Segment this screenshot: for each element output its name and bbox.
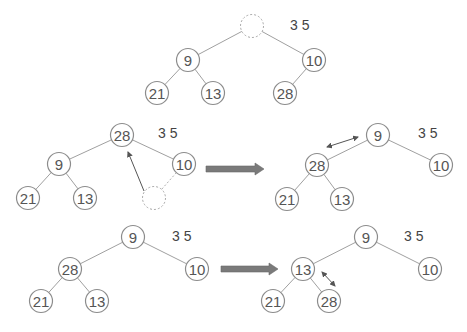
tree-step2-before: 2891021133 5 bbox=[17, 124, 196, 210]
node-value: 13 bbox=[295, 261, 312, 278]
remaining-values-label: 3 5 bbox=[290, 17, 310, 33]
heap-node: 21 bbox=[30, 290, 53, 313]
node-value: 9 bbox=[55, 156, 63, 173]
node-value: 10 bbox=[176, 156, 193, 173]
tree-edge bbox=[262, 32, 304, 55]
heap-node: 9 bbox=[48, 153, 71, 176]
move-up-arrow-icon bbox=[128, 152, 144, 191]
tree-edge bbox=[310, 278, 321, 292]
node-value: 9 bbox=[374, 127, 382, 144]
heap-node: 28 bbox=[306, 154, 329, 177]
node-value: 10 bbox=[422, 261, 439, 278]
heap-node: 10 bbox=[186, 258, 209, 281]
heap-node: 13 bbox=[74, 187, 97, 210]
heap-node: 10 bbox=[419, 258, 442, 281]
node-value: 21 bbox=[265, 293, 282, 310]
heap-node: 13 bbox=[86, 290, 109, 313]
tree-edge bbox=[198, 31, 242, 54]
heap-node: 9 bbox=[355, 226, 378, 249]
heap-node: 9 bbox=[177, 49, 200, 72]
heap-node: 10 bbox=[303, 49, 326, 72]
heap-node: 10 bbox=[430, 154, 453, 177]
tree-edge bbox=[77, 278, 89, 292]
heap-node: 13 bbox=[202, 82, 225, 105]
heap-node: 21 bbox=[17, 187, 40, 210]
tree-step1: 9102113283 5 bbox=[146, 15, 326, 105]
tree-edge-dashed bbox=[162, 173, 177, 190]
node-value: 9 bbox=[362, 229, 370, 246]
swap-arrow-icon bbox=[327, 137, 358, 147]
tree-edge bbox=[195, 69, 206, 84]
empty-slot-circle bbox=[241, 15, 264, 38]
node-value: 21 bbox=[279, 191, 296, 208]
swap-arrow-icon bbox=[322, 272, 335, 286]
node-value: 21 bbox=[149, 85, 166, 102]
tree-edge bbox=[295, 174, 310, 191]
node-value: 13 bbox=[89, 293, 106, 310]
tree-step3-before: 9281021133 5 bbox=[30, 226, 209, 313]
heap-node: 28 bbox=[111, 124, 134, 147]
node-value: 10 bbox=[189, 261, 206, 278]
heap-node: 9 bbox=[367, 124, 390, 147]
node-value: 28 bbox=[321, 293, 338, 310]
heap-node: 13 bbox=[292, 258, 315, 281]
remaining-values-label: 3 5 bbox=[404, 228, 424, 244]
empty-slot-circle bbox=[143, 187, 166, 210]
tree-edge bbox=[293, 69, 307, 85]
node-value: 9 bbox=[129, 229, 137, 246]
tree-edge bbox=[388, 140, 430, 160]
node-value: 13 bbox=[205, 85, 222, 102]
node-value: 28 bbox=[114, 127, 131, 144]
big-right-arrow-icon bbox=[206, 163, 264, 175]
tree-step3-after: 9131021283 5 bbox=[262, 226, 442, 313]
big-right-arrow-icon bbox=[221, 263, 278, 275]
node-value: 10 bbox=[433, 157, 450, 174]
empty-node bbox=[241, 15, 264, 38]
tree-edge bbox=[313, 242, 355, 264]
tree-edge bbox=[281, 277, 295, 292]
tree-edge bbox=[132, 140, 173, 159]
tree-edge bbox=[376, 242, 419, 264]
heap-node: 28 bbox=[274, 82, 297, 105]
tree-edge bbox=[66, 173, 78, 189]
tree-edge bbox=[165, 68, 180, 84]
tree-edge bbox=[36, 172, 52, 189]
tree-edge bbox=[324, 174, 335, 189]
node-value: 9 bbox=[184, 52, 192, 69]
node-value: 28 bbox=[277, 85, 294, 102]
heap-node: 21 bbox=[276, 188, 299, 211]
remaining-values-label: 3 5 bbox=[172, 228, 192, 244]
remaining-values-label: 3 5 bbox=[158, 125, 178, 141]
tree-edge bbox=[80, 242, 122, 264]
heap-node: 21 bbox=[146, 82, 169, 105]
node-value: 28 bbox=[309, 157, 326, 174]
tree-edge bbox=[327, 140, 367, 160]
node-value: 28 bbox=[62, 261, 79, 278]
tree-edge bbox=[69, 140, 111, 159]
tree-step2-after: 9281021133 5 bbox=[276, 124, 453, 211]
heap-node: 10 bbox=[173, 153, 196, 176]
empty-node bbox=[143, 187, 166, 210]
node-value: 13 bbox=[334, 191, 351, 208]
transition-arrows bbox=[206, 163, 278, 275]
tree-edge bbox=[49, 278, 63, 293]
heap-diagram-canvas: 9102113283 52891021133 59281021133 59281… bbox=[0, 0, 467, 332]
node-value: 21 bbox=[20, 190, 37, 207]
heap-node: 21 bbox=[262, 290, 285, 313]
node-value: 21 bbox=[33, 293, 50, 310]
heap-node: 28 bbox=[318, 290, 341, 313]
heap-node: 28 bbox=[59, 258, 82, 281]
remaining-values-label: 3 5 bbox=[418, 125, 438, 141]
heap-node: 9 bbox=[122, 226, 145, 249]
heap-node: 13 bbox=[331, 188, 354, 211]
tree-edge bbox=[143, 242, 186, 264]
node-value: 10 bbox=[306, 52, 323, 69]
node-value: 13 bbox=[77, 190, 94, 207]
